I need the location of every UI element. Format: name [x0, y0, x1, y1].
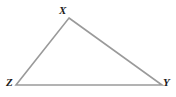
triangle-svg	[0, 0, 176, 97]
vertex-label-y: Y	[163, 77, 170, 88]
vertex-label-x: X	[59, 5, 66, 16]
triangle-xyz-shape	[16, 18, 162, 85]
vertex-label-z: Z	[6, 77, 13, 88]
geometry-figure-canvas: X Z Y	[0, 0, 176, 97]
